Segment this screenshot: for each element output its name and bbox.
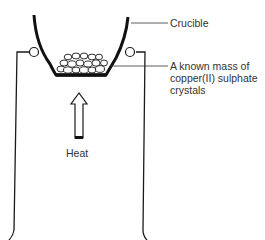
crystals-label-line1: A known mass of: [170, 60, 249, 72]
heat-label: Heat: [66, 147, 88, 159]
crystals-label-line2: copper(II) sulphate: [170, 72, 258, 84]
crucible-label: Crucible: [170, 17, 209, 29]
crystals-label-line3: crystals: [170, 84, 206, 96]
tripod-stand: [9, 52, 147, 240]
heat-arrow-icon: [71, 93, 87, 139]
leader-lines: [110, 23, 168, 66]
copper-sulphate-crystals: [57, 53, 108, 73]
apparatus-diagram: [0, 0, 265, 240]
